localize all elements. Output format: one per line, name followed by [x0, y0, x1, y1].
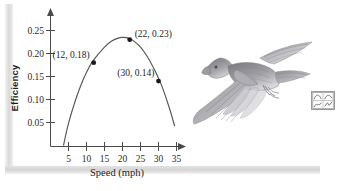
x-tick-label-2: 15 [100, 154, 110, 164]
annotated-points: (12, 0.18)(22, 0.23)(30, 0.14) [52, 29, 171, 84]
bird-eye [215, 66, 218, 69]
y-tick-label-2: 0.15 [27, 72, 44, 82]
x-tick-label-3: 20 [118, 154, 128, 164]
y-tick-label-0: 0.25 [27, 26, 44, 36]
data-point-1 [127, 37, 132, 42]
x-tick-label-0: 5 [66, 154, 71, 164]
y-axis-title: Efficiency [9, 64, 20, 111]
data-point-label-0: (12, 0.18) [52, 50, 89, 61]
data-point-label-2: (30, 0.14) [117, 68, 154, 79]
data-point-label-1: (22, 0.23) [135, 29, 172, 40]
x-axis-arrowhead [178, 143, 186, 150]
x-tick-label-4: 25 [136, 154, 146, 164]
graph-thumbnail-icon[interactable] [311, 91, 335, 110]
x-axis: 5 10 15 20 25 30 35 Speed (mph) [51, 142, 187, 179]
data-point-0 [91, 60, 96, 65]
textbook-figure: 0.25 0.20 0.15 0.10 0.05 Efficiency 5 10… [0, 0, 340, 191]
y-tick-label-3: 0.10 [27, 95, 44, 105]
y-axis-arrowhead [47, 8, 54, 16]
data-point-2 [156, 79, 161, 84]
y-tick-label-4: 0.05 [27, 118, 44, 128]
bird-tail [276, 71, 310, 83]
x-axis-title: Speed (mph) [90, 167, 144, 179]
x-tick-label-5: 30 [154, 154, 164, 164]
bird-in-flight-illustration [190, 28, 315, 140]
x-tick-label-6: 35 [172, 154, 182, 164]
y-tick-label-1: 0.20 [27, 49, 44, 59]
x-tick-label-1: 10 [82, 154, 92, 164]
bird-upper-wing [260, 42, 312, 64]
y-axis: 0.25 0.20 0.15 0.10 0.05 Efficiency [9, 8, 55, 147]
